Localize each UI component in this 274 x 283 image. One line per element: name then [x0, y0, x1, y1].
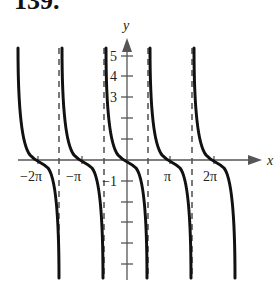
y-tick-label: −1	[102, 174, 117, 189]
x-tick-label: −2π	[20, 169, 42, 184]
curve-branch	[62, 48, 103, 278]
y-tick-label: 4	[110, 69, 117, 84]
x-tick-label: π	[164, 169, 171, 184]
y-tick-label: 5	[110, 49, 117, 64]
curve-branch	[194, 48, 235, 278]
curve-branch	[150, 48, 191, 278]
y-axis-label: y	[121, 18, 130, 33]
y-axis-arrow-icon	[122, 38, 132, 52]
x-tick-label: −π	[66, 169, 81, 184]
curve-branch	[18, 48, 59, 278]
x-axis	[18, 155, 262, 165]
graph: x y 5 4 3 −1 −2π −π π 2π	[0, 0, 274, 283]
x-axis-arrow-icon	[248, 155, 262, 165]
x-tick-label: 2π	[203, 169, 217, 184]
y-tick-label: 3	[110, 90, 117, 105]
x-axis-label: x	[266, 153, 274, 168]
